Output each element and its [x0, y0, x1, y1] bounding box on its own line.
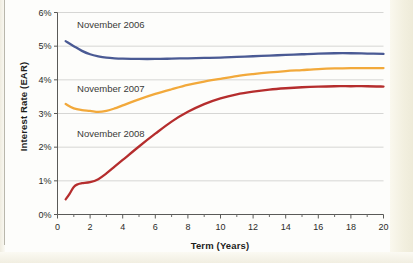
x-axis-tick-label: 18	[346, 222, 356, 232]
y-axis-tick-label: 2%	[38, 142, 51, 152]
x-axis-tick-label: 14	[281, 222, 291, 232]
y-axis-tick-label: 3%	[38, 109, 51, 119]
x-axis-tick-label: 8	[185, 222, 190, 232]
line-chart: 0%1%2%3%4%5%6%02468101214161820November …	[0, 0, 413, 263]
y-axis-tick-label: 0%	[38, 210, 51, 220]
series-line-1	[66, 41, 384, 59]
x-axis-title: Term (Years)	[57, 240, 383, 251]
figure-container: 0%1%2%3%4%5%6%02468101214161820November …	[0, 0, 413, 263]
y-axis-tick-label: 1%	[38, 176, 51, 186]
x-axis-tick-label: 4	[120, 222, 125, 232]
x-axis-tick-label: 2	[88, 222, 93, 232]
x-axis-tick-label: 16	[313, 222, 323, 232]
chart-plot-area: 0%1%2%3%4%5%6%02468101214161820November …	[0, 0, 413, 263]
y-axis-tick-label: 5%	[38, 41, 51, 51]
y-axis-tick-label: 6%	[38, 8, 51, 18]
x-axis-tick-label: 12	[248, 222, 258, 232]
y-axis-title: Interest Rate (EAR)	[18, 32, 29, 182]
series-label-3: November 2008	[77, 128, 145, 139]
x-axis-tick-label: 0	[55, 222, 60, 232]
x-axis-tick-label: 10	[215, 222, 225, 232]
y-axis-tick-label: 4%	[38, 75, 51, 85]
series-line-3	[66, 86, 384, 199]
series-label-2: November 2007	[77, 83, 145, 94]
x-axis-tick-label: 6	[153, 222, 158, 232]
series-label-1: November 2006	[77, 19, 145, 30]
x-axis-tick-label: 20	[378, 222, 388, 232]
